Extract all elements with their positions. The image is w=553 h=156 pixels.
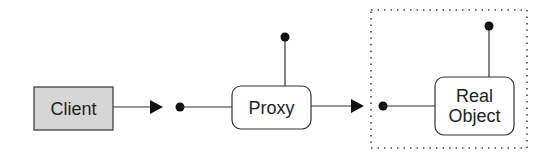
proxy-arrowhead-icon bbox=[351, 99, 364, 113]
real-object-top-dot-icon bbox=[485, 22, 494, 31]
real-object-label-line2: Object bbox=[448, 106, 500, 126]
client-label: Client bbox=[34, 87, 113, 130]
proxy-label: Proxy bbox=[232, 86, 311, 129]
proxy-top-dot-icon bbox=[281, 33, 290, 42]
client-arrowhead-icon bbox=[150, 100, 163, 114]
real-object-label-line1: Real bbox=[456, 86, 493, 106]
real-object-label: Real Object bbox=[435, 77, 514, 135]
